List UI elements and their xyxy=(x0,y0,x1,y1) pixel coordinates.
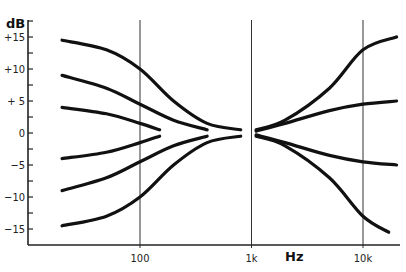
x-tick-label: 100 xyxy=(131,252,150,265)
y-tick-label: −5 xyxy=(10,159,25,172)
eq-response-chart: +15+10+ 50−5−10−151001k10k dB Hz xyxy=(0,0,406,272)
x-axis-title: Hz xyxy=(285,249,303,264)
response-curve xyxy=(62,136,241,226)
response-curves xyxy=(62,37,397,232)
y-tick-label: + 5 xyxy=(7,95,25,108)
x-tick-label: 10k xyxy=(354,252,373,265)
response-curve xyxy=(256,135,396,165)
y-tick-label: +10 xyxy=(4,63,25,76)
response-curve xyxy=(256,37,396,130)
response-curve xyxy=(62,40,241,130)
response-curve xyxy=(256,101,396,131)
response-curve xyxy=(62,136,160,158)
axis-labels: +15+10+ 50−5−10−151001k10k xyxy=(4,31,372,265)
grid-lines xyxy=(140,20,363,248)
response-curve xyxy=(256,136,389,232)
x-tick-label: 1k xyxy=(245,252,257,265)
y-axis-title: dB xyxy=(6,16,25,31)
y-tick-label: +15 xyxy=(4,31,25,44)
axes xyxy=(28,20,400,245)
y-tick-label: −10 xyxy=(4,191,25,204)
response-curve xyxy=(62,107,160,129)
y-tick-label: −15 xyxy=(4,223,25,236)
y-tick-label: 0 xyxy=(19,127,25,140)
